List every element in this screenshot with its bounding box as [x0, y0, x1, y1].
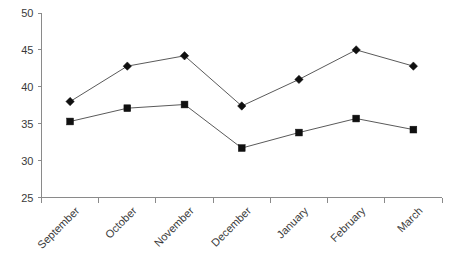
x-tick-label: December [209, 204, 254, 249]
series-line [70, 50, 413, 106]
data-point-square [181, 101, 188, 108]
series-line [70, 105, 413, 149]
data-point-diamond [66, 97, 74, 105]
x-tick-label: October [103, 204, 139, 240]
y-tick-label: 35 [21, 118, 33, 130]
y-tick-label: 30 [21, 155, 33, 167]
y-tick-group: 253035404550 [21, 7, 41, 204]
line-chart: 253035404550 SeptemberOctoberNovemberDec… [0, 0, 454, 262]
x-tick-label: March [395, 204, 425, 234]
x-tick-label: November [152, 204, 197, 249]
data-point-square [410, 126, 417, 133]
series-layer [66, 46, 418, 152]
data-point-square [238, 145, 245, 152]
x-tick-group [42, 198, 443, 203]
data-point-square [67, 118, 74, 125]
y-tick-label: 40 [21, 81, 33, 93]
x-axis-labels: SeptemberOctoberNovemberDecemberJanuaryF… [35, 204, 425, 251]
data-point-diamond [295, 75, 303, 83]
data-point-diamond [123, 62, 131, 70]
x-tick-label: September [35, 204, 82, 251]
data-point-diamond [409, 62, 417, 70]
data-point-square [296, 129, 303, 136]
chart-plot-area: 253035404550 SeptemberOctoberNovemberDec… [0, 0, 454, 262]
x-tick-label: February [328, 204, 368, 244]
y-tick-label: 25 [21, 192, 33, 204]
series-diamond [66, 46, 418, 110]
y-tick-label: 45 [21, 44, 33, 56]
y-tick-label: 50 [21, 7, 33, 19]
x-axis-group [42, 198, 443, 203]
y-axis-group: 253035404550 [21, 7, 41, 204]
data-point-diamond [352, 46, 360, 54]
x-tick-label: January [274, 204, 311, 241]
data-point-square [124, 105, 131, 112]
data-point-square [353, 115, 360, 122]
